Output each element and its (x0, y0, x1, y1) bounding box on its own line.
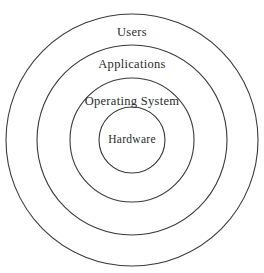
ring-operating-system (70, 78, 194, 202)
rings-svg (0, 0, 264, 273)
ring-applications (37, 45, 227, 235)
concentric-layers-diagram: Users Applications Operating System Hard… (0, 0, 264, 273)
ring-hardware (99, 107, 165, 173)
ring-users (6, 14, 258, 266)
